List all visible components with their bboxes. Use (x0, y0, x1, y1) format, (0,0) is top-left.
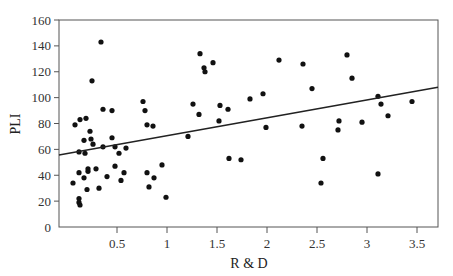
data-point (118, 178, 123, 183)
data-point (185, 134, 190, 139)
y-tick-label: 40 (38, 168, 51, 183)
y-axis: 020406080100120140160 (32, 13, 60, 235)
data-point (216, 118, 221, 123)
data-point (260, 91, 265, 96)
data-points (70, 39, 414, 207)
data-point (247, 96, 252, 101)
x-axis: 0.511.522.533.5 (109, 227, 425, 251)
data-point (318, 180, 323, 185)
data-point (89, 78, 94, 83)
data-point (335, 127, 340, 132)
data-point (159, 162, 164, 167)
data-point (109, 108, 114, 113)
y-tick-label: 80 (38, 116, 51, 131)
data-point (225, 107, 230, 112)
data-point (336, 118, 341, 123)
data-point (116, 151, 121, 156)
y-tick-label: 0 (45, 220, 52, 235)
x-tick-label: 1 (164, 236, 171, 251)
data-point (90, 142, 95, 147)
data-point (81, 138, 86, 143)
x-tick-label: 3 (364, 236, 371, 251)
y-tick-label: 140 (32, 38, 52, 53)
data-point (409, 99, 414, 104)
data-point (104, 174, 109, 179)
data-point (375, 171, 380, 176)
data-point (299, 123, 304, 128)
data-point (196, 112, 201, 117)
plot-frame (59, 20, 438, 227)
data-point (112, 164, 117, 169)
data-point (150, 123, 155, 128)
data-point (87, 129, 92, 134)
data-point (163, 195, 168, 200)
x-tick-label: 2 (264, 236, 271, 251)
data-point (77, 202, 82, 207)
data-point (320, 156, 325, 161)
data-point (144, 122, 149, 127)
data-point (123, 145, 128, 150)
y-tick-label: 120 (32, 64, 52, 79)
data-point (88, 136, 93, 141)
data-point (100, 107, 105, 112)
data-point (72, 122, 77, 127)
data-point (378, 101, 383, 106)
data-point (96, 186, 101, 191)
x-tick-label: 2.5 (309, 236, 325, 251)
x-tick-label: 3.5 (409, 236, 425, 251)
data-point (76, 170, 81, 175)
x-tick-label: 1.5 (209, 236, 225, 251)
data-point (146, 184, 151, 189)
data-point (70, 180, 75, 185)
data-point (238, 157, 243, 162)
data-point (151, 175, 156, 180)
y-axis-title: PLI (8, 113, 23, 134)
data-point (197, 51, 202, 56)
data-point (140, 99, 145, 104)
data-point (385, 113, 390, 118)
data-point (276, 58, 281, 63)
data-point (344, 52, 349, 57)
y-tick-label: 60 (38, 142, 51, 157)
data-point (210, 60, 215, 65)
y-tick-label: 20 (38, 194, 51, 209)
scatter-chart: 0.511.522.533.5 020406080100120140160 R … (0, 0, 453, 276)
x-tick-label: 0.5 (109, 236, 125, 251)
data-point (217, 103, 222, 108)
data-point (121, 170, 126, 175)
data-point (202, 69, 207, 74)
data-point (84, 187, 89, 192)
data-point (309, 86, 314, 91)
data-point (190, 101, 195, 106)
plot-area (59, 20, 438, 227)
data-point (81, 175, 86, 180)
data-point (226, 156, 231, 161)
data-point (83, 116, 88, 121)
data-point (300, 61, 305, 66)
data-point (142, 108, 147, 113)
data-point (93, 166, 98, 171)
y-tick-label: 160 (32, 13, 52, 28)
data-point (77, 117, 82, 122)
y-tick-label: 100 (32, 90, 52, 105)
data-point (144, 170, 149, 175)
data-point (109, 135, 114, 140)
data-point (349, 76, 354, 81)
x-axis-title: R & D (230, 256, 267, 271)
data-point (98, 39, 103, 44)
data-point (359, 120, 364, 125)
data-point (263, 125, 268, 130)
data-point (85, 169, 90, 174)
